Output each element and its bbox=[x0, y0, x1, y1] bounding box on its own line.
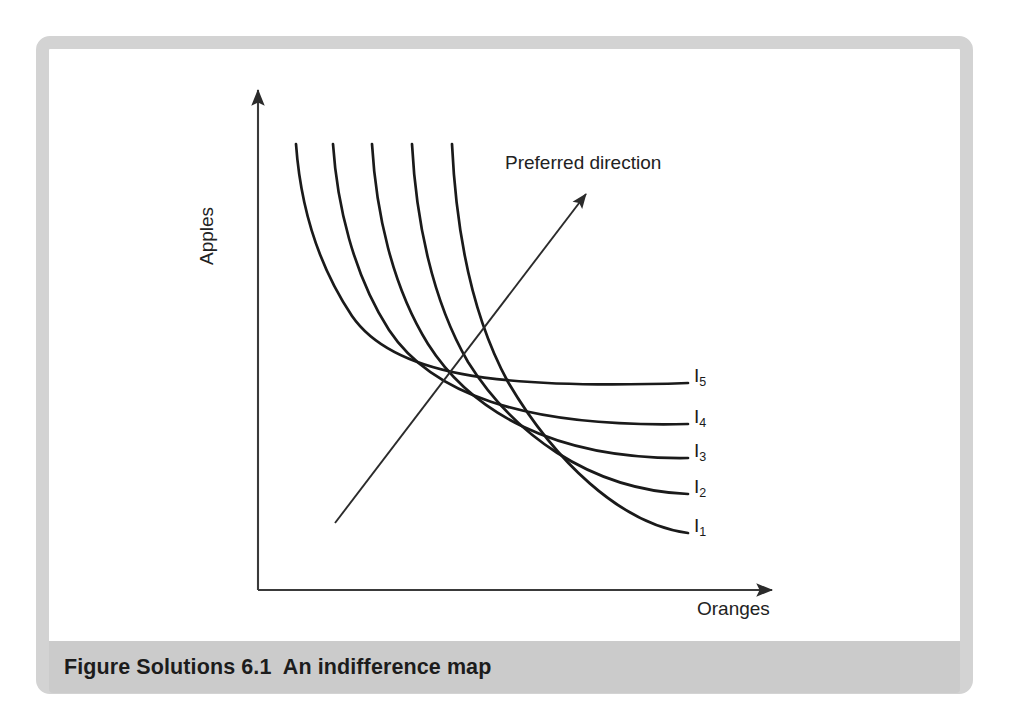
curve-label-I3-subscript: 3 bbox=[699, 450, 706, 464]
figure-caption-bar: Figure Solutions 6.1 An indifference map bbox=[49, 641, 960, 693]
x-axis-label: Oranges bbox=[697, 598, 770, 620]
preferred-direction-annotation: Preferred direction bbox=[505, 152, 661, 174]
curve-label-I4-subscript: 4 bbox=[699, 416, 706, 430]
figure-caption-text: Figure Solutions 6.1 An indifference map bbox=[49, 655, 491, 680]
curve-label-I1-subscript: 1 bbox=[699, 525, 706, 539]
curve-label-I1: I1 bbox=[694, 515, 706, 537]
curve-label-I5-subscript: 5 bbox=[699, 375, 706, 389]
y-axis-label: Apples bbox=[196, 207, 218, 265]
curve-label-I2: I2 bbox=[694, 476, 706, 498]
curve-label-I3: I3 bbox=[694, 440, 706, 462]
figure-frame-border bbox=[36, 36, 973, 694]
curve-label-I4: I4 bbox=[694, 406, 706, 428]
figure-root: Apples Oranges Preferred direction I5 I4… bbox=[0, 0, 1018, 722]
curve-label-I2-subscript: 2 bbox=[699, 486, 706, 500]
curve-label-I5: I5 bbox=[694, 365, 706, 387]
